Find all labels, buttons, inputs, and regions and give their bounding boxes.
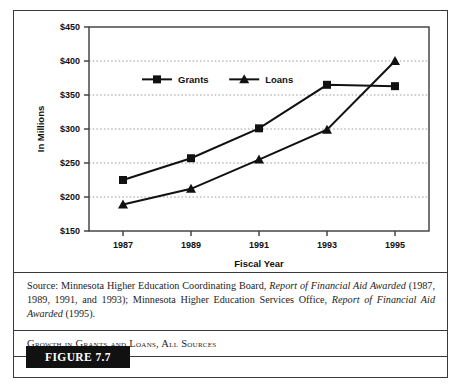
source-note-panel: Source: Minnesota Higher Education Coord…	[14, 273, 447, 331]
x-axis-tick-label: 1993	[317, 240, 337, 250]
y-axis-title: In Millions	[35, 106, 46, 152]
figure-container: $150$200$250$300$350$400$450198719891991…	[13, 10, 448, 378]
x-axis-tick-label: 1987	[113, 240, 133, 250]
x-axis-tick-label: 1991	[249, 240, 269, 250]
series-line-loans	[123, 61, 395, 204]
source-note: Source: Minnesota Higher Education Coord…	[27, 279, 435, 321]
data-point-grants-1987	[119, 176, 127, 184]
x-axis-tick-label: 1989	[181, 240, 201, 250]
figure-number-badge: FIGURE 7.7	[26, 346, 130, 368]
data-point-loans-1995	[390, 56, 400, 65]
source-prefix: Source: Minnesota Higher Education Coord…	[27, 280, 269, 291]
data-point-grants-1995	[391, 82, 399, 90]
y-axis-tick-label: $150	[60, 226, 80, 236]
line-chart: $150$200$250$300$350$400$450198719891991…	[14, 11, 447, 273]
chart-legend: GrantsLoans	[142, 74, 293, 85]
source-italic-title-1: Report of Financial Aid Awarded	[269, 280, 405, 291]
figure-number-label: FIGURE 7.7	[45, 351, 111, 363]
x-axis-tick-label: 1995	[385, 240, 405, 250]
data-point-grants-1989	[187, 154, 195, 162]
y-axis-tick-label: $300	[60, 124, 80, 134]
chart-panel: $150$200$250$300$350$400$450198719891991…	[14, 11, 447, 273]
y-axis-tick-label: $250	[60, 158, 80, 168]
y-axis-tick-label: $350	[60, 90, 80, 100]
series-line-grants	[123, 85, 395, 180]
legend-marker-grants	[153, 75, 161, 83]
data-point-grants-1993	[323, 81, 331, 89]
y-axis-tick-label: $450	[60, 22, 80, 32]
source-suffix: (1995).	[63, 308, 95, 319]
y-axis-tick-label: $200	[60, 192, 80, 202]
legend-label-loans: Loans	[265, 74, 293, 85]
x-axis-title: Fiscal Year	[234, 258, 284, 269]
legend-label-grants: Grants	[178, 74, 209, 85]
data-point-grants-1991	[255, 124, 263, 132]
y-axis-tick-label: $400	[60, 56, 80, 66]
